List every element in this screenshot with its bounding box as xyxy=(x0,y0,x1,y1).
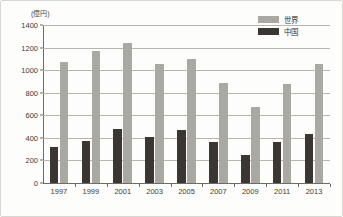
bar-group xyxy=(209,25,228,183)
bar-world xyxy=(60,62,69,183)
x-axis-baseline xyxy=(43,183,330,184)
chart-legend: 世界中国 xyxy=(258,14,320,38)
x-axis-tick-label: 2003 xyxy=(146,187,163,196)
x-axis-tick-label: 1997 xyxy=(51,187,68,196)
x-axis-tick-mark xyxy=(330,184,331,187)
bar-group xyxy=(305,25,324,183)
legend-label: 中国 xyxy=(284,26,298,37)
x-axis-tick-label: 2011 xyxy=(274,187,290,196)
bar-group xyxy=(145,25,164,183)
bar-world xyxy=(283,84,292,183)
x-axis-tick-mark xyxy=(202,184,203,187)
bar-china xyxy=(241,155,250,183)
bar-china xyxy=(305,134,314,183)
x-axis-tick-label: 2013 xyxy=(306,187,323,196)
bar-world xyxy=(187,59,196,183)
bar-china xyxy=(209,142,218,183)
legend-item: 中国 xyxy=(258,26,320,37)
x-axis-tick-mark xyxy=(75,184,76,187)
x-axis-tick-label: 2009 xyxy=(242,187,259,196)
bar-china xyxy=(50,147,59,183)
x-axis-labels: 199719992001200320052007200920112013 xyxy=(43,187,330,201)
bar-china xyxy=(273,142,282,183)
x-axis-tick-mark xyxy=(107,184,108,187)
x-axis-tick-label: 1999 xyxy=(82,187,99,196)
bar-china xyxy=(177,130,186,183)
bar-group xyxy=(177,25,196,183)
legend-swatch xyxy=(258,28,279,35)
x-axis-tick-label: 2001 xyxy=(114,187,131,196)
x-axis-tick-mark xyxy=(139,184,140,187)
bar-world xyxy=(155,64,164,183)
bar-world xyxy=(315,64,324,183)
x-axis-tick-mark xyxy=(298,184,299,187)
chart-figure: (億円) 0200400600800100012001400 199719992… xyxy=(0,0,343,217)
x-axis-tick-label: 2005 xyxy=(178,187,195,196)
bar-china xyxy=(113,129,122,183)
bar-china xyxy=(145,137,154,183)
bar-group xyxy=(273,25,292,183)
x-axis-tick-label: 2007 xyxy=(210,187,227,196)
x-axis-tick-mark xyxy=(171,184,172,187)
bar-group xyxy=(113,25,132,183)
bar-group xyxy=(241,25,260,183)
bar-world xyxy=(92,51,101,183)
legend-swatch xyxy=(258,16,279,23)
bar-china xyxy=(82,141,91,183)
legend-item: 世界 xyxy=(258,14,320,25)
y-axis-unit-label: (億円) xyxy=(31,8,50,18)
bar-world xyxy=(219,83,228,183)
plot-area: 0200400600800100012001400 xyxy=(43,25,330,183)
bars-layer xyxy=(43,25,330,183)
x-axis-tick-mark xyxy=(266,184,267,187)
bar-group xyxy=(50,25,69,183)
x-axis-tick-mark xyxy=(234,184,235,187)
legend-label: 世界 xyxy=(284,14,298,25)
bar-group xyxy=(82,25,101,183)
bar-world xyxy=(123,43,132,184)
bar-world xyxy=(251,107,260,183)
